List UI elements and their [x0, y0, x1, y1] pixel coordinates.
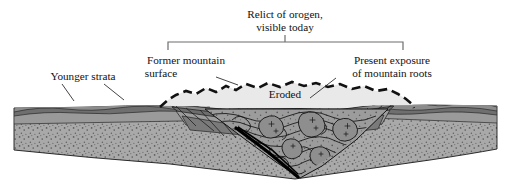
- leader-younger-strata-right: [104, 84, 124, 100]
- geologic-cross-section-diagram: Relict of orogen, visible today Former m…: [0, 0, 511, 185]
- younger-strata-label: Younger strata: [50, 70, 115, 82]
- leader-younger-strata-left: [62, 84, 74, 101]
- former-surface-label-line-1: Former mountain: [147, 54, 225, 66]
- former-surface-label-line-2: surface: [145, 67, 177, 79]
- eroded-label: Eroded: [269, 88, 302, 100]
- leader-former-surface: [216, 77, 238, 85]
- bracket-title-line-1: Relict of orogen,: [247, 8, 323, 20]
- present-exposure-label-line-2: of mountain roots: [352, 67, 432, 79]
- present-exposure-label-line-1: Present exposure: [354, 54, 430, 66]
- bracket-title-line-2: visible today: [256, 21, 314, 33]
- relict-of-orogen-bracket: [168, 35, 403, 50]
- figure-canvas: Relict of orogen, visible today Former m…: [0, 0, 511, 185]
